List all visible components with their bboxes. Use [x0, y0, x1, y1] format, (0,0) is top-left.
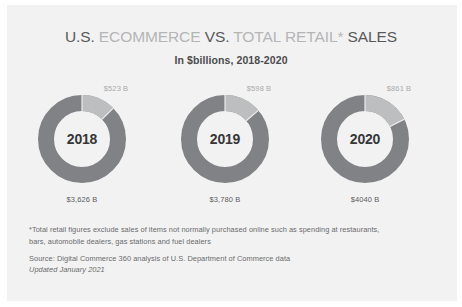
footnotes-block: *Total retail figures exclude sales of i… — [29, 224, 439, 276]
donut-2018: $523 B 2018 $3,626 B — [7, 84, 157, 204]
footnote-updated: Updated January 2021 — [29, 264, 439, 276]
panel-edge-right — [457, 0, 462, 307]
donut-2019: $598 B 2019 $3,780 B — [150, 84, 300, 204]
donut-2020-ecommerce-label: $861 B — [290, 84, 462, 93]
donut-2020: $861 B 2020 $4040 B — [290, 84, 440, 204]
title-part-us: U.S. — [65, 28, 95, 45]
chart-title: U.S. ECOMMERCE VS. TOTAL RETAIL* SALES — [0, 28, 462, 46]
donut-2019-year-label: 2019 — [179, 93, 271, 185]
footnote-asterisk-line1: *Total retail figures exclude sales of i… — [29, 224, 439, 236]
donut-2020-ring: 2020 — [319, 93, 411, 185]
title-part-total-retail: TOTAL RETAIL* — [233, 28, 343, 45]
infographic-panel: U.S. ECOMMERCE VS. TOTAL RETAIL* SALES I… — [0, 0, 462, 307]
donut-2020-year-label: 2020 — [319, 93, 411, 185]
donut-chart-group: $523 B 2018 $3,626 B $598 B — [7, 84, 457, 204]
donut-2018-year-label: 2018 — [36, 93, 128, 185]
footnote-asterisk-line2: bars, automobile dealers, gas stations a… — [29, 236, 439, 248]
donut-2018-total-label: $3,626 B — [7, 195, 157, 204]
footnote-source: Source: Digital Commerce 360 analysis of… — [29, 253, 439, 265]
footnote-asterisk: *Total retail figures exclude sales of i… — [29, 224, 439, 247]
donut-2019-total-label: $3,780 B — [150, 195, 300, 204]
title-part-vs: VS. — [205, 28, 230, 45]
donut-2018-ring: 2018 — [36, 93, 128, 185]
panel-edge-left — [0, 0, 7, 307]
donut-2019-ring: 2019 — [179, 93, 271, 185]
panel-edge-top — [0, 0, 462, 5]
chart-subtitle: In $billions, 2018-2020 — [0, 54, 462, 66]
panel-edge-bottom — [0, 301, 462, 307]
title-part-ecommerce: ECOMMERCE — [99, 28, 201, 45]
donut-2020-total-label: $4040 B — [290, 195, 440, 204]
title-part-sales: SALES — [348, 28, 397, 45]
